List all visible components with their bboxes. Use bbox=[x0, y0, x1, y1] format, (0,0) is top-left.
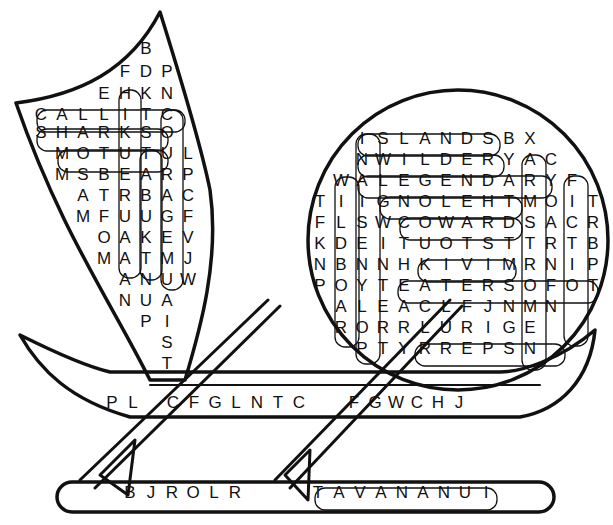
sail-letter: T bbox=[96, 187, 112, 204]
hull-letter: F bbox=[186, 394, 202, 411]
circle-letter: Y bbox=[543, 172, 559, 189]
sail-letter: C bbox=[33, 106, 49, 123]
float-letter: A bbox=[415, 484, 431, 501]
circle-letter: T bbox=[375, 340, 391, 357]
sail-letter: K bbox=[138, 85, 154, 102]
hull-letter: C bbox=[165, 394, 181, 411]
circle-letter: N bbox=[543, 256, 559, 273]
circle-letter: A bbox=[522, 151, 538, 168]
hull-letter: W bbox=[388, 394, 404, 411]
circle-letter: E bbox=[459, 340, 475, 357]
sail-letter: A bbox=[117, 271, 133, 288]
circle-letter: R bbox=[396, 319, 412, 336]
sail-letter: P bbox=[138, 313, 154, 330]
circle-letter: N bbox=[354, 256, 370, 273]
circle-letter: A bbox=[543, 214, 559, 231]
circle-letter: O bbox=[438, 235, 454, 252]
sail-letter: O bbox=[96, 229, 112, 246]
circle-letter: N bbox=[354, 151, 370, 168]
circle-letter: E bbox=[354, 235, 370, 252]
circle-letter: N bbox=[375, 256, 391, 273]
circle-letter: F bbox=[312, 214, 328, 231]
circle-letter: M bbox=[522, 298, 538, 315]
sail-letter: E bbox=[159, 229, 175, 246]
circle-letter: E bbox=[459, 193, 475, 210]
sail-letter: G bbox=[159, 208, 175, 225]
sail-letter: T bbox=[138, 145, 154, 162]
sail-letter: S bbox=[138, 124, 154, 141]
float-letter: B bbox=[122, 484, 138, 501]
circle-letter: R bbox=[480, 151, 496, 168]
sail-letter: O bbox=[75, 145, 91, 162]
circle-letter: O bbox=[543, 193, 559, 210]
hull-letter: T bbox=[270, 394, 286, 411]
sail-letter: J bbox=[180, 250, 196, 267]
circle-letter: Y bbox=[396, 340, 412, 357]
circle-letter: W bbox=[375, 151, 391, 168]
sail-letter: B bbox=[96, 166, 112, 183]
sail-letter: M bbox=[96, 250, 112, 267]
circle-letter: L bbox=[375, 172, 391, 189]
circle-letter: D bbox=[333, 235, 349, 252]
circle-letter: O bbox=[564, 277, 580, 294]
circle-letter: R bbox=[480, 277, 496, 294]
circle-letter: E bbox=[396, 172, 412, 189]
sail-letter: E bbox=[96, 85, 112, 102]
circle-letter: T bbox=[501, 193, 517, 210]
circle-letter: O bbox=[354, 319, 370, 336]
sail-letter: T bbox=[96, 145, 112, 162]
sail-letter: S bbox=[159, 334, 175, 351]
hull-letter: N bbox=[249, 394, 265, 411]
circle-letter: U bbox=[438, 319, 454, 336]
sail-letter: A bbox=[117, 229, 133, 246]
circle-letter: E bbox=[459, 151, 475, 168]
circle-letter: T bbox=[375, 277, 391, 294]
circle-letter: C bbox=[396, 214, 412, 231]
sail-letter: B bbox=[138, 40, 154, 57]
sail-letter: C bbox=[180, 187, 196, 204]
sail-letter: A bbox=[159, 292, 175, 309]
sail-letter: M bbox=[54, 145, 70, 162]
float-letter: V bbox=[352, 484, 368, 501]
circle-letter: P bbox=[312, 277, 328, 294]
circle-letter: E bbox=[396, 277, 412, 294]
sail-letter: A bbox=[159, 187, 175, 204]
circle-letter: I bbox=[564, 193, 580, 210]
circle-letter: N bbox=[396, 193, 412, 210]
sail-letter: P bbox=[180, 166, 196, 183]
circle-letter: V bbox=[459, 256, 475, 273]
circle-letter: E bbox=[522, 319, 538, 336]
sail-letter: L bbox=[75, 106, 91, 123]
float-letter: T bbox=[310, 484, 326, 501]
circle-letter: S bbox=[501, 277, 517, 294]
float-letter: L bbox=[206, 484, 222, 501]
sail-letter: O bbox=[159, 124, 175, 141]
circle-letter: W bbox=[333, 172, 349, 189]
circle-letter: S bbox=[375, 130, 391, 147]
circle-letter: H bbox=[480, 193, 496, 210]
circle-letter: N bbox=[522, 340, 538, 357]
circle-letter: Y bbox=[501, 151, 517, 168]
circle-letter: J bbox=[480, 298, 496, 315]
circle-letter: T bbox=[312, 193, 328, 210]
sail-letter: E bbox=[117, 166, 133, 183]
hull-letter: F bbox=[346, 394, 362, 411]
circle-letter: A bbox=[396, 298, 412, 315]
circle-letter: C bbox=[564, 214, 580, 231]
circle-letter: R bbox=[543, 235, 559, 252]
sail-letter: F bbox=[117, 63, 133, 80]
sail-letter: U bbox=[159, 145, 175, 162]
circle-letter: D bbox=[459, 130, 475, 147]
circle-letter: P bbox=[354, 340, 370, 357]
sail-letter: F bbox=[180, 208, 196, 225]
circle-letter: K bbox=[417, 256, 433, 273]
circle-letter: I bbox=[480, 319, 496, 336]
sail-letter: S bbox=[33, 124, 49, 141]
circle-letter: U bbox=[417, 235, 433, 252]
circle-letter: W bbox=[375, 214, 391, 231]
sail-letter: R bbox=[159, 166, 175, 183]
circle-letter: I bbox=[438, 256, 454, 273]
circle-letter: Y bbox=[354, 277, 370, 294]
sail-letter: R bbox=[117, 187, 133, 204]
circle-letter: T bbox=[522, 235, 538, 252]
